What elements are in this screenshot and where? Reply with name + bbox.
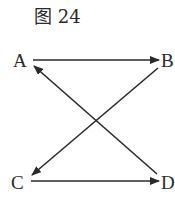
- diagram-canvas: [0, 0, 175, 217]
